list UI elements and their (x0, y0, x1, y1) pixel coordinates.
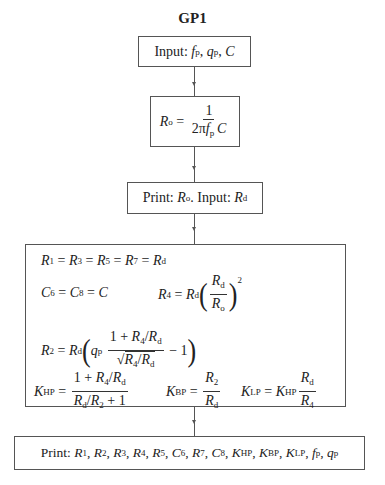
print-input-box: Print: Ro. Input: Rd (127, 182, 263, 214)
diagram-title: GP1 (0, 10, 385, 27)
connector (194, 147, 195, 182)
equation-khp: KHP = 1 + R4/RdRd/R2 + 1 (34, 370, 130, 413)
equation-r4: R4 = Rd( RdRo)2 (158, 273, 242, 316)
arrow-icon (192, 166, 196, 170)
final-print-box: Print: R1, R2, R3, R4, R5, C6, R7, C8, K… (14, 436, 365, 470)
equation-r2: R2 = Rd(qp 1 + R4/Rd√R4/Rd − 1) (41, 329, 196, 372)
ro-formula-box: Ro = 1 2πfp C (150, 96, 240, 147)
equation-c-equal: C6 = C8 = C (41, 285, 108, 301)
equation-r-equal: R1 = R3 = R5 = R7 = Rd (41, 253, 166, 269)
arrow-icon (192, 82, 196, 86)
input-box: Input: fp, qp, C (138, 36, 251, 67)
arrow-icon (192, 227, 196, 231)
arrow-icon (192, 420, 196, 424)
equations-box: R1 = R3 = R5 = R7 = Rd C6 = C8 = C R4 = … (25, 244, 346, 407)
input-label: Input: (154, 44, 187, 60)
equation-klp: KLP = KHP RdR4 (241, 370, 318, 413)
ro-fraction: 1 2πfp C (190, 103, 229, 141)
